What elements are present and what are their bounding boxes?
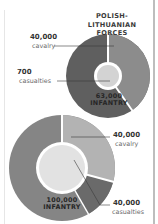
casualties-label-1: casualties — [19, 77, 51, 85]
infantry-text-2: INFANTRY — [37, 204, 87, 211]
casualties-value-2: 40,000 — [113, 199, 140, 207]
cavalry-value-1: 40,000 — [30, 33, 57, 41]
infantry-label-2: 100,000 INFANTRY — [37, 197, 87, 212]
cavalry-label-1: cavalry — [32, 42, 55, 50]
cavalry-value-2: 40,000 — [113, 131, 140, 139]
infantry-text-1: INFANTRY — [84, 100, 134, 107]
casualties-inner — [97, 65, 119, 87]
infantry-label-1: 63,000 INFANTRY — [84, 93, 134, 108]
cavalry-label-2: cavalry — [115, 140, 138, 148]
casualties-value-1: 700 — [17, 68, 32, 76]
casualties-label-2: casualties — [112, 208, 144, 216]
inner-circle-2 — [39, 145, 85, 191]
chart-title: POLISH-LITHUANIAN FORCES — [72, 12, 152, 38]
